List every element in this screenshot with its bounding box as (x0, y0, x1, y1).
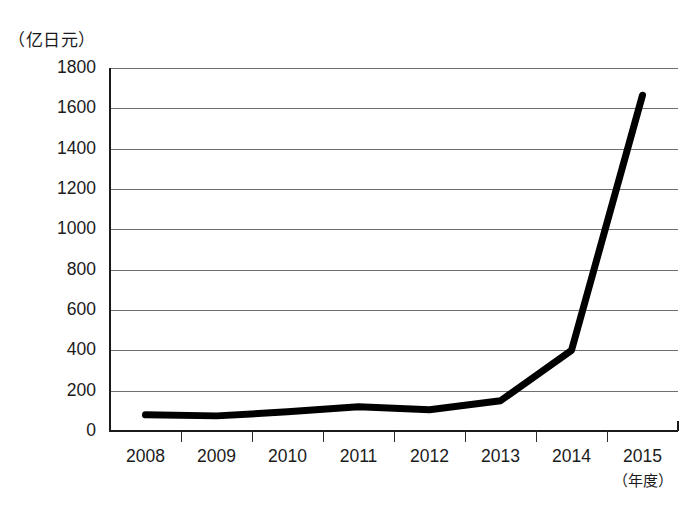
x-axis-ticks-group (110, 431, 678, 443)
y-axis-unit-label: （亿日元） (8, 26, 96, 51)
x-axis-tick (536, 431, 537, 442)
x-axis-tick-label-year: 2014 (552, 446, 591, 466)
x-axis-tick-label: 2015（年度） (603, 446, 683, 490)
y-axis-tick-label: 1600 (8, 98, 96, 119)
x-axis-tick-label-year: 2009 (197, 446, 236, 466)
x-axis-tick-label-year: 2012 (410, 446, 449, 466)
line-chart: （亿日元） 020040060080010001200140016001800 … (0, 0, 698, 507)
y-axis-tick-label: 0 (8, 420, 96, 441)
x-axis-tick-label: 2010 (248, 446, 328, 467)
x-axis-unit-label: （年度） (603, 469, 683, 490)
x-axis-tick-label-year: 2010 (268, 446, 307, 466)
y-axis-tick-label: 1800 (8, 57, 96, 78)
x-axis-tick (394, 431, 395, 442)
y-axis-tick-label: 600 (8, 299, 96, 320)
x-axis-tick-label: 2012 (390, 446, 470, 467)
y-axis-tick-label: 800 (8, 259, 96, 280)
x-axis-tick (181, 431, 182, 442)
x-axis-tick (323, 431, 324, 442)
x-axis-tick-label: 2013 (461, 446, 541, 467)
x-axis-tick (465, 431, 466, 442)
y-axis-tick-label: 1200 (8, 178, 96, 199)
x-axis-tick (607, 431, 608, 442)
x-axis-tick-label: 2014 (532, 446, 612, 467)
x-axis-tick-label: 2011 (319, 446, 399, 467)
x-axis-tick-label-year: 2011 (340, 446, 378, 466)
x-axis-tick-label: 2009 (177, 446, 257, 467)
y-axis-tick-label: 1000 (8, 219, 96, 240)
x-axis-tick (252, 431, 253, 442)
y-axis-tick-label: 1400 (8, 138, 96, 159)
y-axis-tick-label: 200 (8, 380, 96, 401)
x-axis-tick-label-year: 2013 (481, 446, 520, 466)
x-axis-tick-label-year: 2015 (623, 446, 662, 466)
x-axis-labels-group: 20082009201020112012201320142015（年度） (110, 446, 678, 498)
y-axis-labels-group: 020040060080010001200140016001800 (110, 68, 678, 431)
x-axis-tick-label-year: 2008 (126, 446, 165, 466)
y-axis-tick-label: 400 (8, 340, 96, 361)
x-axis-tick-label: 2008 (106, 446, 186, 467)
